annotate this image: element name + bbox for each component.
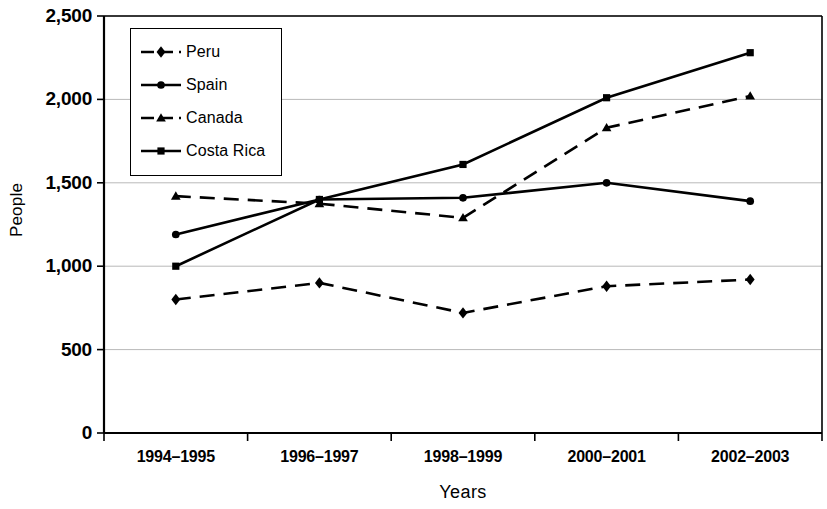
legend-label: Canada [186,109,243,127]
plot-area [0,0,827,509]
data-point-diamond [746,274,755,285]
legend-label: Peru [186,43,220,61]
data-point-diamond [171,294,180,305]
x-tick-label: 1994–1995 [106,449,246,465]
legend-marker-diamond-icon [139,42,183,62]
chart-legend: PeruSpainCanadaCosta Rica [130,28,282,176]
x-axis-title: Years [104,482,822,503]
data-point-square [603,94,610,101]
data-point-triangle [745,91,755,99]
x-tick-label: 2002–2003 [680,449,820,465]
data-point-square [316,196,323,203]
data-point-diamond [602,281,611,292]
x-tick-label: 2000–2001 [537,449,677,465]
data-point-circle [459,194,467,202]
data-point-circle [603,179,611,187]
legend-label: Spain [186,76,227,94]
data-point-diamond [157,46,166,57]
data-point-circle [746,197,754,205]
data-point-diamond [315,277,324,288]
data-point-square [459,161,466,168]
line-chart: People 05001,0001,5002,0002,500 1994–199… [0,0,827,509]
legend-item-spain[interactable]: Spain [139,72,227,98]
legend-item-peru[interactable]: Peru [139,39,220,65]
legend-marker-triangle-icon [139,108,183,128]
data-point-square [747,49,754,56]
legend-label: Costa Rica [186,142,265,160]
data-point-diamond [459,307,468,318]
x-tick-label: 1998–1999 [393,449,533,465]
series-spain [172,179,754,238]
legend-marker-circle-icon [139,75,183,95]
legend-item-costa-rica[interactable]: Costa Rica [139,138,265,164]
series-peru [171,274,754,319]
data-point-square [172,263,179,270]
data-point-circle [157,81,165,89]
legend-marker-square-icon [139,141,183,161]
x-tick-label: 1996–1997 [249,449,389,465]
legend-item-canada[interactable]: Canada [139,105,243,131]
data-point-circle [172,231,180,239]
data-point-square [157,147,164,154]
